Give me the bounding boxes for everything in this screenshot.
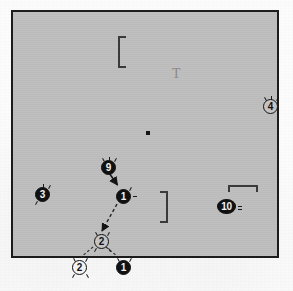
whisker-tick-icon <box>86 274 89 278</box>
marker-10[interactable]: 10 <box>217 199 236 214</box>
marker-label: 3 <box>40 189 45 199</box>
bracket-left-upper-icon <box>118 36 126 68</box>
marker-label: 4 <box>268 101 273 111</box>
t-glyph: T <box>172 67 181 81</box>
center-dot <box>146 131 150 135</box>
whisker-tick-icon <box>72 274 75 278</box>
marker-1-outer[interactable]: 1 <box>116 260 131 275</box>
whisker-tick-icon <box>129 258 132 262</box>
marker-label: 2 <box>77 262 82 272</box>
whisker-tick-icon <box>85 258 88 262</box>
marker-label: 1 <box>121 191 126 201</box>
bracket-right-mid-icon <box>160 191 168 223</box>
whisker-tick-icon <box>117 258 120 262</box>
marker-4[interactable]: 4 <box>263 99 278 114</box>
whisker-tick-icon <box>133 196 137 197</box>
field-texture <box>13 12 277 256</box>
marker-2-outer[interactable]: 2 <box>72 260 87 275</box>
marker-label: 2 <box>99 236 104 246</box>
whisker-tick-icon <box>238 206 242 207</box>
marker-label: 9 <box>106 162 111 172</box>
bracket-top-scalebar-icon <box>228 185 258 192</box>
whisker-tick-icon <box>43 184 44 188</box>
marker-label: 1 <box>121 262 126 272</box>
whisker-tick-icon <box>73 258 76 262</box>
whisker-tick-icon <box>238 209 242 210</box>
whisker-tick-icon <box>271 96 272 100</box>
figure-root: T 9 1 3 <box>0 0 293 291</box>
gray-field <box>11 10 279 258</box>
marker-9[interactable]: 9 <box>101 160 116 175</box>
marker-3[interactable]: 3 <box>35 187 50 202</box>
marker-2-inner[interactable]: 2 <box>94 234 109 249</box>
marker-label: 10 <box>221 201 232 211</box>
whisker-tick-icon <box>109 157 110 161</box>
marker-1-upper[interactable]: 1 <box>116 189 131 204</box>
